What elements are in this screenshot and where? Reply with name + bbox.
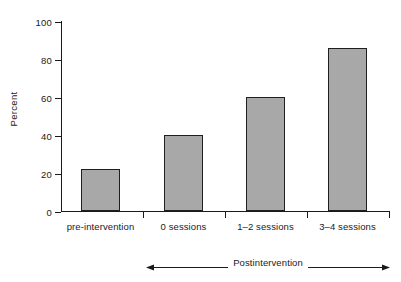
x-tick-mark-2 xyxy=(225,212,226,218)
y-tick-mark-0 xyxy=(55,212,61,213)
x-tick-mark-1 xyxy=(143,212,144,218)
bar-3-4-sessions xyxy=(328,48,367,211)
bar-pre-intervention xyxy=(81,169,120,211)
postintervention-annotation: Postintervention xyxy=(146,255,390,273)
x-category-label-3-4-sessions: 3–4 sessions xyxy=(289,221,401,232)
y-axis-line xyxy=(61,21,62,212)
bar-0-sessions xyxy=(164,135,203,211)
y-tick-label-60: 60 xyxy=(12,94,52,104)
y-tick-label-80: 80 xyxy=(12,56,52,66)
y-tick-label-40: 40 xyxy=(12,132,52,142)
bar-1-2-sessions xyxy=(246,97,285,211)
x-tick-mark-4 xyxy=(389,212,390,218)
bar-chart-figure: Percent 100 80 60 40 20 0 pre-interventi… xyxy=(0,0,401,282)
y-tick-label-100: 100 xyxy=(12,18,52,28)
y-tick-label-20: 20 xyxy=(12,170,52,180)
postintervention-label: Postintervention xyxy=(228,257,308,269)
y-tick-label-0: 0 xyxy=(12,208,52,218)
x-tick-mark-3 xyxy=(307,212,308,218)
